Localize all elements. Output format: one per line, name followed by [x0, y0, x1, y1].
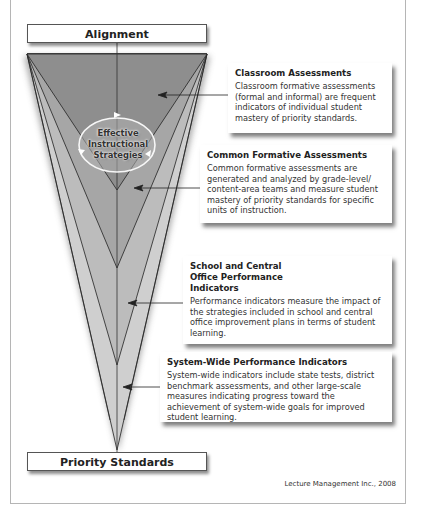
callout-body: Classroom formative assessments (formal …: [235, 81, 385, 123]
callout-title: Classroom Assessments: [235, 68, 385, 79]
callout-body: System-wide indicators include state tes…: [167, 370, 385, 423]
callout-title: System-Wide Performance Indicators: [167, 357, 385, 368]
callout-school-central-office: School and Central Office Performance In…: [183, 256, 392, 344]
credit-line: Lecture Management Inc., 2008: [284, 480, 396, 488]
callout-title: School and Central Office Performance In…: [190, 261, 310, 294]
effective-instructional-strategies-label: Effective Instructional Strategies: [79, 128, 157, 161]
center-label-line-3: Strategies: [79, 150, 157, 161]
callout-body: Common formative assessments are generat…: [207, 163, 385, 216]
callout-body: Performance indicators measure the impac…: [190, 296, 385, 338]
callout-system-wide-indicators: System-Wide Performance Indicators Syste…: [160, 352, 392, 422]
center-label-line-2: Instructional: [79, 139, 157, 150]
callout-classroom-assessments: Classroom Assessments Classroom formativ…: [228, 63, 392, 133]
center-label-line-1: Effective: [79, 128, 157, 139]
alignment-label: Alignment: [27, 24, 207, 43]
callout-title: Common Formative Assessments: [207, 150, 385, 161]
callout-common-formative-assessments: Common Formative Assessments Common form…: [200, 145, 392, 223]
priority-standards-label: Priority Standards: [27, 452, 207, 471]
